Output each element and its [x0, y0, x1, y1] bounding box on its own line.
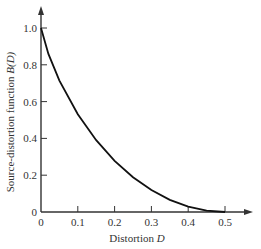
- y-tick-label: 1.0: [23, 22, 37, 34]
- x-tick-label: 0: [38, 216, 44, 228]
- y-tick-label: 0.4: [23, 132, 37, 144]
- y-tick-label: 0.2: [23, 169, 37, 181]
- y-tick-label: 0.6: [23, 96, 37, 108]
- x-tick-label: 0.4: [181, 216, 195, 228]
- y-tick-label: 0: [32, 206, 38, 218]
- x-tick-label: 0.2: [108, 216, 122, 228]
- y-tick-label: 0.8: [23, 59, 37, 71]
- x-axis-label: Distortion D: [109, 232, 164, 244]
- x-tick-label: 0.1: [71, 216, 85, 228]
- axes: [38, 6, 253, 215]
- curve-b-of-d: [41, 28, 225, 212]
- y-axis-arrow-icon: [38, 6, 44, 15]
- x-tick-label: 0.3: [145, 216, 159, 228]
- y-ticks: 00.20.40.60.81.0: [23, 22, 47, 218]
- x-axis-arrow-icon: [244, 209, 253, 215]
- y-axis-label: Source-distortion function B(D): [4, 51, 17, 192]
- rate-distortion-chart: 00.10.20.30.40.5 00.20.40.60.81.0 Distor…: [0, 0, 261, 249]
- x-tick-label: 0.5: [218, 216, 232, 228]
